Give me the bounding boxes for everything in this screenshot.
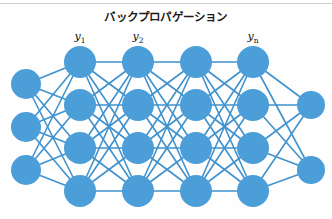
node-label-yn: yn xyxy=(247,30,258,45)
node-hidden-layer-2-3 xyxy=(122,132,154,164)
node-input-layer-1 xyxy=(11,69,41,99)
node-output-layer-2 xyxy=(297,156,325,184)
edges-group xyxy=(26,62,311,191)
backpropagation-figure: バックプロパゲーション y1y2yn xyxy=(0,0,332,219)
node-hidden-layer-2-1 xyxy=(122,46,154,78)
node-label-y1: y1 xyxy=(75,30,86,45)
node-hidden-layer-3-1 xyxy=(180,46,212,78)
node-hidden-layer-1-4 xyxy=(64,175,96,207)
node-input-layer-2 xyxy=(11,112,41,142)
node-hidden-layer-4-3 xyxy=(237,132,269,164)
node-input-layer-3 xyxy=(11,155,41,185)
label-subscript: n xyxy=(254,36,259,45)
label-subscript: 1 xyxy=(81,36,86,45)
node-hidden-layer-4-2 xyxy=(237,89,269,121)
node-hidden-layer-3-4 xyxy=(180,175,212,207)
node-hidden-layer-1-2 xyxy=(64,89,96,121)
node-hidden-layer-2-4 xyxy=(122,175,154,207)
node-hidden-layer-1-1 xyxy=(64,46,96,78)
node-hidden-layer-1-3 xyxy=(64,132,96,164)
neural-network-diagram xyxy=(0,0,332,219)
node-output-layer-1 xyxy=(297,91,325,119)
node-label-y2: y2 xyxy=(133,30,144,45)
node-hidden-layer-3-3 xyxy=(180,132,212,164)
node-hidden-layer-2-2 xyxy=(122,89,154,121)
node-hidden-layer-4-1 xyxy=(237,46,269,78)
node-hidden-layer-3-2 xyxy=(180,89,212,121)
node-hidden-layer-4-4 xyxy=(237,175,269,207)
label-subscript: 2 xyxy=(139,36,144,45)
